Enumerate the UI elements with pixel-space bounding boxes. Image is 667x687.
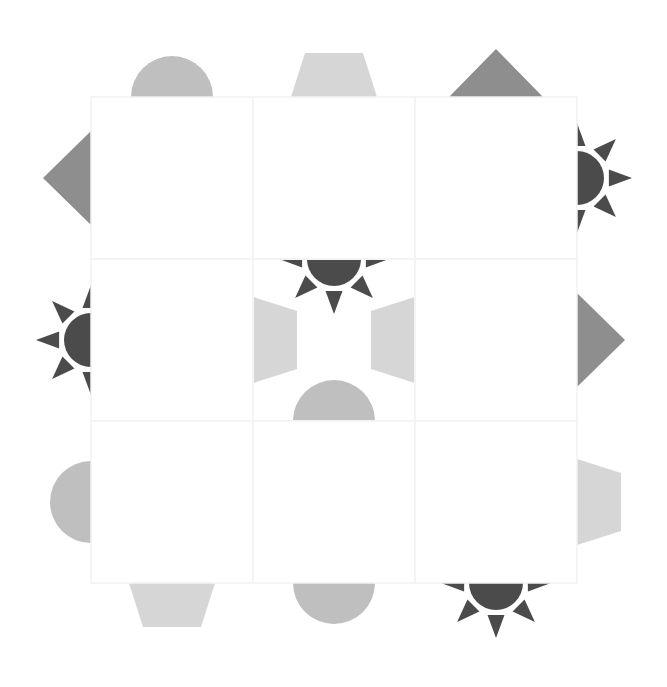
tile-r0c2[interactable] [415, 97, 577, 259]
semicircle-shape [131, 56, 213, 97]
trapezoid-shape [371, 297, 415, 383]
semicircle-shape [293, 583, 375, 624]
sun-ray [52, 301, 74, 323]
semicircle-edge-r2c1-bottom [293, 583, 375, 624]
triangle-edge-r0c0-left [43, 131, 91, 225]
tile-r0c0[interactable] [91, 97, 253, 259]
triangle-edge-r0c2-top [449, 49, 543, 97]
sun-ray [609, 170, 632, 187]
trapezoid-inner-wrap [371, 297, 415, 383]
tile-r1c0[interactable] [91, 259, 253, 421]
tile-r2c2[interactable] [415, 421, 577, 583]
triangle-shape [449, 49, 543, 97]
trapezoid-inner-wrap [253, 297, 297, 383]
sun-ray [513, 600, 535, 622]
sun-ray [594, 195, 616, 217]
trapezoid-shape [291, 53, 377, 97]
sun-ray [36, 332, 59, 349]
trapezoid-edge-r2c2-right [577, 459, 621, 545]
triangle-shape [43, 131, 91, 225]
trapezoid-shape [253, 297, 297, 383]
semicircle-edge-r0c0-top [131, 56, 213, 97]
sun-ray [594, 139, 616, 161]
tile-r2c1[interactable] [253, 421, 415, 583]
tile-grid [91, 97, 577, 583]
trapezoid-edge-r0c1-top [291, 53, 377, 97]
tile-r2c0[interactable] [91, 421, 253, 583]
trapezoid-shape [577, 459, 621, 545]
sun-ray [488, 615, 505, 638]
sun-ray [457, 600, 479, 622]
tile-r0c1[interactable] [253, 97, 415, 259]
trapezoid-shape [129, 583, 215, 627]
tile-r1c2[interactable] [415, 259, 577, 421]
sun-ray [52, 357, 74, 379]
semicircle-edge-r2c0-left [50, 461, 91, 543]
trapezoid-edge-r2c0-bottom [129, 583, 215, 627]
semicircle-shape [50, 461, 91, 543]
triangle-edge-r1c2-right [577, 293, 625, 387]
trapezoid-edge-r1c1-right [371, 297, 415, 383]
triangle-shape [577, 293, 625, 387]
trapezoid-edge-r1c1-left [253, 297, 297, 383]
puzzle-board [0, 0, 667, 687]
